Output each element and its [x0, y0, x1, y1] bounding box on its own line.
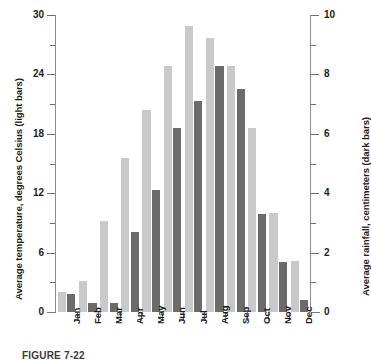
y-axis-left-major-tick — [47, 193, 55, 194]
y-axis-right-title: Average rainfall, centimeters (dark bars… — [360, 117, 371, 296]
x-axis-left-cap — [47, 312, 56, 313]
y-axis-left-tick-label: 24 — [33, 68, 44, 79]
y-axis-right-minor-tick — [311, 45, 316, 46]
bar-temperature-jun — [164, 66, 172, 313]
y-axis-right-tick-label: 4 — [324, 187, 330, 198]
y-axis-left-tick-label: 30 — [33, 9, 44, 20]
y-axis-left-minor-tick — [50, 104, 55, 105]
x-axis-label-apr: Apr — [134, 308, 145, 324]
y-axis-left-minor-tick — [50, 45, 55, 46]
x-axis-label-mar: Mar — [113, 307, 124, 324]
y-axis-left-tick-label: 6 — [38, 247, 44, 258]
y-axis-left-major-tick — [47, 15, 55, 16]
x-axis-label-aug: Aug — [219, 306, 230, 324]
bar-temperature-nov — [269, 213, 277, 312]
x-axis-label-oct: Oct — [261, 308, 272, 324]
x-axis-label-feb: Feb — [92, 307, 103, 324]
x-axis-label-jun: Jun — [176, 307, 187, 324]
y-axis-right-major-tick — [311, 74, 319, 75]
y-axis-left-title: Average temperature, degrees Celsius (li… — [13, 78, 24, 300]
bar-temperature-jan — [58, 292, 66, 312]
y-axis-left-major-tick — [47, 134, 55, 135]
y-axis-right-major-tick — [311, 253, 319, 254]
figure-root: Average temperature, degrees Celsius (li… — [0, 0, 371, 361]
bar-rainfall-nov — [279, 262, 287, 312]
y-axis-right-minor-tick — [311, 104, 316, 105]
bar-temperature-sep — [227, 66, 235, 312]
bar-rainfall-may — [152, 190, 160, 312]
x-axis-label-jan: Jan — [71, 308, 82, 324]
bar-rainfall-aug — [215, 66, 223, 313]
y-axis-left-major-tick — [47, 74, 55, 75]
x-axis-label-may: May — [155, 306, 166, 324]
figure-caption: FIGURE 7-22 — [22, 350, 85, 361]
bar-temperature-oct — [248, 128, 256, 312]
bar-temperature-dec — [291, 261, 299, 312]
y-axis-left-tick-label: 0 — [38, 306, 44, 317]
y-axis-right-tick-label: 10 — [324, 9, 335, 20]
y-axis-left-major-tick — [47, 253, 55, 254]
y-axis-left-minor-tick — [50, 282, 55, 283]
y-axis-left-spine — [55, 15, 56, 312]
y-axis-right-major-tick — [311, 15, 319, 16]
x-axis-label-sep: Sep — [240, 307, 251, 324]
y-axis-right-tick-label: 8 — [324, 68, 330, 79]
y-axis-left-tick-label: 12 — [33, 187, 44, 198]
x-axis-label-jul: Jul — [198, 310, 209, 324]
y-axis-left-minor-tick — [50, 164, 55, 165]
bar-rainfall-jul — [194, 101, 202, 312]
y-axis-right-major-tick — [311, 134, 319, 135]
bar-temperature-mar — [100, 221, 108, 312]
y-axis-right-minor-tick — [311, 223, 316, 224]
y-axis-right-minor-tick — [311, 164, 316, 165]
y-axis-left-minor-tick — [50, 223, 55, 224]
y-axis-right-minor-tick — [311, 282, 316, 283]
bar-rainfall-sep — [237, 89, 245, 312]
y-axis-right-tick-label: 6 — [324, 128, 330, 139]
bar-temperature-may — [142, 110, 150, 312]
bar-temperature-apr — [121, 158, 129, 312]
x-axis-label-dec: Dec — [303, 307, 314, 324]
bar-temperature-aug — [206, 38, 214, 312]
y-axis-right-tick-label: 2 — [324, 247, 330, 258]
bar-rainfall-jun — [173, 128, 181, 312]
bar-rainfall-oct — [258, 214, 266, 312]
bar-rainfall-apr — [131, 232, 139, 312]
y-axis-right-major-tick — [311, 193, 319, 194]
x-axis-label-nov: Nov — [282, 306, 293, 324]
plot-area: 0612182430 0246810 JanFebMarAprMayJunJul… — [56, 15, 310, 312]
y-axis-right-tick-label: 0 — [324, 306, 330, 317]
bar-temperature-jul — [185, 26, 193, 312]
y-axis-left-tick-label: 18 — [33, 128, 44, 139]
